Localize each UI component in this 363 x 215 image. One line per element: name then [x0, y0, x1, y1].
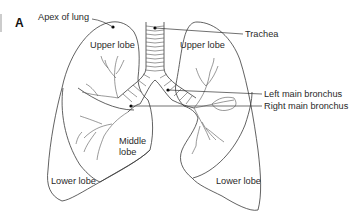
label-middle-lobe-line1: Middle	[119, 136, 146, 146]
trachea-leader	[155, 28, 243, 34]
trachea-rings	[123, 26, 192, 104]
apex-leader	[92, 19, 113, 27]
label-middle-lobe-line2: lobe	[119, 147, 136, 157]
label-upper-lobe-right-lung: Upper lobe	[90, 40, 135, 50]
trachea-outline	[118, 22, 196, 98]
right-oblique-fissure	[62, 88, 100, 182]
panel-letter: A	[15, 16, 24, 30]
label-right-main-bronchus: Right main bronchus	[264, 101, 349, 111]
label-apex: Apex of lung	[38, 12, 89, 22]
left-oblique-fissure	[193, 92, 252, 178]
label-upper-lobe-left-lung: Upper lobe	[180, 40, 225, 50]
label-trachea: Trachea	[245, 29, 279, 39]
lung-diagram: A	[0, 0, 363, 215]
label-lower-lobe-right-lung: Lower lobe	[51, 176, 96, 186]
label-lower-lobe-left-lung: Lower lobe	[216, 176, 261, 186]
label-left-main-bronchus: Left main bronchus	[264, 89, 343, 99]
left-bronchus-lower-edge	[172, 100, 194, 108]
